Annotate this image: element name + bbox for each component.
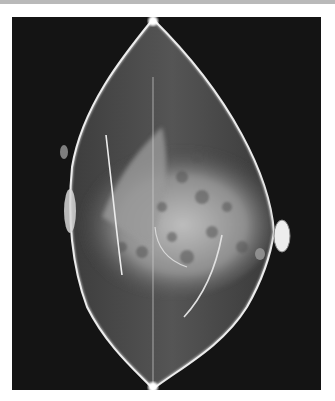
top-bar [0,0,335,4]
dense-tissue [67,137,277,297]
mammogram-image [12,17,321,390]
skin-marker-left [64,189,76,233]
skin-marker-right [274,220,290,252]
nodule-right [255,248,265,260]
mammogram-panel [12,17,321,390]
skin-marker-left-small [60,145,68,159]
